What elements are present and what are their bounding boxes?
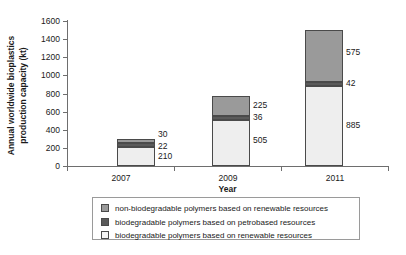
y-axis-tick-label: 600 bbox=[18, 108, 60, 117]
bar-2007-label-top: 30 bbox=[158, 130, 167, 139]
y-axis-tick bbox=[63, 112, 68, 113]
y-axis-tick-label: 1400 bbox=[18, 35, 60, 44]
bar-2011-label-top: 575 bbox=[346, 48, 360, 57]
bar-2007-segment-non-biodegradable-renewable bbox=[117, 139, 155, 143]
x-axis-tick bbox=[174, 166, 175, 171]
y-axis-tick-label: 1000 bbox=[18, 71, 60, 80]
y-axis-tick bbox=[63, 75, 68, 76]
bar-2009-segment-biodegradable-renewable bbox=[212, 120, 250, 166]
y-axis-tick bbox=[63, 148, 68, 149]
y-axis-tick-label: 200 bbox=[18, 144, 60, 153]
x-axis-tick-label-2011: 2011 bbox=[305, 173, 365, 183]
legend-item-biodegradable-petrobased: biodegradable polymers based on petrobas… bbox=[101, 216, 315, 228]
bar-2009-label-top: 225 bbox=[253, 101, 267, 110]
bar-2007-label-mid: 22 bbox=[158, 142, 167, 151]
x-axis-tick bbox=[67, 166, 68, 171]
bar-2011-segment-non-biodegradable-renewable bbox=[305, 30, 343, 82]
bar-2007-segment-biodegradable-renewable bbox=[117, 147, 155, 166]
y-axis-tick-label: 0 bbox=[18, 162, 60, 171]
x-axis-tick bbox=[388, 166, 389, 171]
stacked-bar-chart: Annual worldwide bioplastics production … bbox=[0, 0, 406, 255]
legend-swatch-icon bbox=[101, 218, 109, 226]
x-axis-tick-label-2007: 2007 bbox=[91, 173, 151, 183]
x-axis-line bbox=[67, 166, 388, 167]
legend-item-biodegradable-renewable: biodegradable polymers based on renewabl… bbox=[101, 229, 312, 241]
y-axis-tick-label: 1200 bbox=[18, 53, 60, 62]
x-axis-title: Year bbox=[67, 184, 388, 194]
y-axis-tick bbox=[63, 130, 68, 131]
legend-item-non-biodegradable-renewable: non-biodegradable polymers based on rene… bbox=[101, 202, 328, 214]
y-axis-tick bbox=[63, 39, 68, 40]
y-axis-tick-label: 400 bbox=[18, 126, 60, 135]
legend-swatch-icon bbox=[101, 204, 109, 212]
y-axis-tick bbox=[63, 57, 68, 58]
bar-2009-label-mid: 36 bbox=[253, 113, 262, 122]
bar-2009-label-bottom: 505 bbox=[253, 136, 267, 145]
legend: non-biodegradable polymers based on rene… bbox=[92, 197, 360, 240]
y-axis-tick-label: 1600 bbox=[18, 17, 60, 26]
bar-2007-label-bottom: 210 bbox=[158, 152, 172, 161]
bar-2007-segment-biodegradable-petrobased bbox=[117, 143, 155, 147]
x-axis-tick-label-2009: 2009 bbox=[198, 173, 258, 183]
bar-2009-segment-biodegradable-petrobased bbox=[212, 116, 250, 120]
bar-2009-segment-non-biodegradable-renewable bbox=[212, 96, 250, 116]
bar-2011-segment-biodegradable-renewable bbox=[305, 86, 343, 166]
legend-swatch-icon bbox=[101, 231, 109, 239]
legend-item-label: biodegradable polymers based on renewabl… bbox=[115, 231, 312, 240]
bar-2011-label-mid: 42 bbox=[346, 79, 355, 88]
bar-2011-segment-biodegradable-petrobased bbox=[305, 82, 343, 86]
y-axis-tick bbox=[63, 94, 68, 95]
x-axis-tick bbox=[281, 166, 282, 171]
legend-item-label: non-biodegradable polymers based on rene… bbox=[115, 204, 328, 213]
bar-2011-label-bottom: 885 bbox=[346, 121, 360, 130]
legend-item-label: biodegradable polymers based on petrobas… bbox=[115, 218, 315, 227]
y-axis-tick-label: 800 bbox=[18, 90, 60, 99]
y-axis-tick bbox=[63, 21, 68, 22]
